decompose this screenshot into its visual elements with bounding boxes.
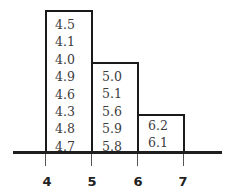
tick-7 xyxy=(183,154,184,166)
value: 5.6 xyxy=(102,103,122,120)
value: 4.3 xyxy=(55,103,75,120)
value: 5.1 xyxy=(102,85,122,102)
value: 4.6 xyxy=(55,86,75,103)
value: 4.1 xyxy=(55,33,75,50)
tick-label-6: 6 xyxy=(128,174,148,189)
bar-6-7-values: 6.2 6.1 xyxy=(148,117,168,152)
tick-label-4: 4 xyxy=(37,174,57,189)
value: 6.2 xyxy=(148,117,168,134)
value: 4.0 xyxy=(55,51,75,68)
tick-label-5: 5 xyxy=(82,174,102,189)
value: 5.0 xyxy=(102,68,122,85)
value: 4.8 xyxy=(55,120,75,137)
value: 6.1 xyxy=(148,134,168,151)
tick-4 xyxy=(45,154,46,166)
value: 4.9 xyxy=(55,68,75,85)
value: 5.9 xyxy=(102,120,122,137)
tick-5 xyxy=(91,154,92,166)
tick-label-7: 7 xyxy=(173,174,193,189)
value: 4.5 xyxy=(55,16,75,33)
bar-4-5-values: 4.5 4.1 4.0 4.9 4.6 4.3 4.8 4.7 xyxy=(55,16,75,155)
tick-6 xyxy=(137,154,138,166)
bar-5-6-values: 5.0 5.1 5.6 5.9 5.8 xyxy=(102,68,122,155)
